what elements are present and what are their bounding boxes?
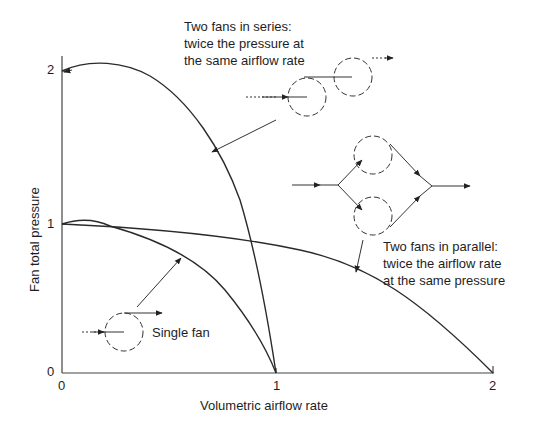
single-fan-leader-arrow bbox=[137, 258, 181, 307]
parallel-annotation: Two fans in parallel: twice the airflow … bbox=[383, 238, 505, 289]
single-fan-annotation: Single fan bbox=[152, 324, 210, 341]
axes bbox=[62, 56, 494, 373]
x-tick-0: 0 bbox=[58, 378, 65, 393]
y-tick-1: 1 bbox=[47, 216, 54, 231]
parallel-fans-icon bbox=[292, 136, 470, 235]
parallel-leader-arrow bbox=[356, 240, 363, 272]
fan-curves-diagram: 2 1 0 0 1 2 Volumetric airflow rate Fan … bbox=[0, 0, 554, 436]
y-tick-0: 0 bbox=[47, 364, 54, 379]
series-leader-arrow bbox=[212, 120, 276, 152]
single-fan-icon bbox=[82, 313, 162, 351]
x-tick-1: 1 bbox=[273, 378, 280, 393]
x-tick-2: 2 bbox=[489, 378, 496, 393]
y-tick-2: 2 bbox=[47, 62, 54, 77]
y-axis-label: Fan total pressure bbox=[27, 187, 42, 292]
x-axis-label: Volumetric airflow rate bbox=[200, 397, 328, 414]
single-fan-curve bbox=[62, 220, 276, 373]
series-annotation: Two fans in series: twice the pressure a… bbox=[184, 18, 305, 69]
